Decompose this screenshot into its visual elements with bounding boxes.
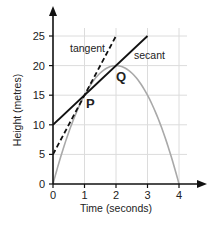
y-tick-label: 15 — [33, 89, 45, 101]
x-axis-arrow — [197, 180, 207, 188]
y-axis-arrow — [49, 6, 57, 16]
x-tick-label: 2 — [113, 189, 119, 201]
x-axis-label: Time (seconds) — [80, 202, 152, 214]
y-axis-label: Height (metres) — [11, 74, 23, 146]
y-tick-label: 0 — [39, 178, 45, 190]
point-p-label: P — [86, 96, 95, 111]
y-tick-label: 10 — [33, 119, 45, 131]
secant-label: secant — [134, 49, 165, 61]
y-tick-label: 25 — [33, 30, 45, 42]
x-tick-label: 1 — [81, 189, 87, 201]
chart: 012340510152025 Time (seconds) Height (m… — [0, 0, 211, 225]
point-q-label: Q — [116, 69, 126, 84]
x-tick-label: 0 — [50, 189, 56, 201]
tangent-label: tangent — [70, 42, 105, 54]
y-tick-label: 5 — [39, 148, 45, 160]
y-tick-label: 20 — [33, 60, 45, 72]
axes — [49, 6, 207, 188]
x-tick-label: 3 — [144, 189, 150, 201]
x-tick-label: 4 — [176, 189, 182, 201]
